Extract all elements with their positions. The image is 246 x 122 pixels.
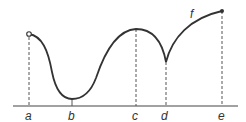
point-label-b: b [68,109,75,122]
curve-label-f: f [190,7,195,21]
function-graph-diagram: f a b c d e [0,0,246,122]
point-label-c: c [132,109,138,122]
point-label-d: d [161,109,168,122]
point-label-a: a [25,109,32,122]
open-endpoint-a-icon [27,32,32,37]
graph-canvas: f a b c d e [0,0,246,122]
point-label-e: e [218,109,225,122]
closed-endpoint-e-icon [220,9,224,13]
curve-f [29,11,222,99]
